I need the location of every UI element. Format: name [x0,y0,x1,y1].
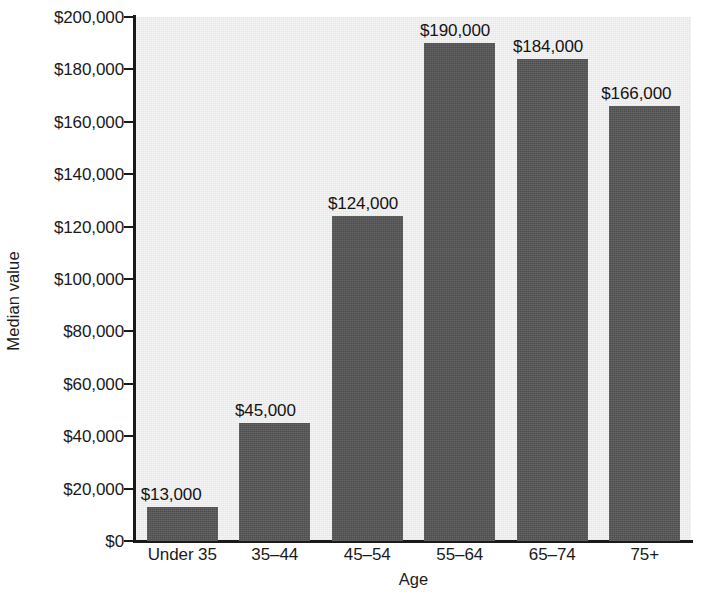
y-axis-tick-mark [124,278,134,280]
bar-texture [517,59,588,541]
bar-texture [332,216,403,541]
x-axis-category-label: 75+ [599,546,692,563]
x-axis-category-label: 55–64 [414,546,507,563]
bar-texture [609,106,680,541]
y-axis-tick-label: $120,000 [54,218,124,235]
y-axis-tick-mark [124,435,134,437]
y-axis-tick-mark [124,330,134,332]
y-axis-tick-label: $180,000 [54,61,124,78]
bar[interactable] [517,59,588,541]
y-axis-tick-label: $200,000 [54,9,124,26]
bar[interactable] [424,43,495,541]
bar[interactable] [332,216,403,541]
y-axis-tick-label: $80,000 [63,323,124,340]
y-axis-tick-label: $160,000 [54,113,124,130]
y-axis-tick-label: $100,000 [54,271,124,288]
y-axis-tick-mark [124,488,134,490]
y-axis-tick-mark [124,173,134,175]
y-axis-tick-label: $0 [105,533,124,550]
bar-texture [147,507,218,541]
y-axis-tick-labels: $0$20,000$40,000$60,000$80,000$100,000$1… [0,0,124,602]
x-axis-category-label: 35–44 [229,546,322,563]
y-axis-tick-label: $20,000 [63,480,124,497]
y-axis-tick-label: $40,000 [63,428,124,445]
bar[interactable] [147,507,218,541]
x-axis-category-label: 65–74 [506,546,599,563]
y-axis-tick-mark [124,226,134,228]
bar-texture [424,43,495,541]
y-axis-tick-mark [124,16,134,18]
x-axis-title: Age [136,571,691,588]
y-axis-tick-label: $140,000 [54,166,124,183]
bar[interactable] [609,106,680,541]
y-axis-tick-mark [124,68,134,70]
bar-value-label: $124,000 [328,195,398,212]
x-axis-category-label: Under 35 [136,546,229,563]
bar-value-label: $166,000 [601,85,671,102]
bar-texture [239,423,310,541]
x-axis-category-label: 45–54 [321,546,414,563]
bar-chart-figure: Median value $0$20,000$40,000$60,000$80,… [0,0,703,602]
bar-value-label: $190,000 [420,22,490,39]
y-axis-tick-mark [124,383,134,385]
y-axis-tick-mark [124,540,134,542]
page-bleed-text [10,592,610,601]
bar[interactable] [239,423,310,541]
y-axis-tick-mark [124,121,134,123]
bar-value-label: $13,000 [141,486,202,503]
bar-value-label: $45,000 [235,402,296,419]
bar-value-label: $184,000 [513,38,583,55]
y-axis-tick-label: $60,000 [63,375,124,392]
